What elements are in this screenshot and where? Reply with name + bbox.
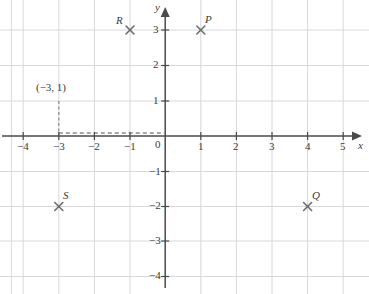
x-tick-label-2: 2 <box>233 141 239 152</box>
x-tick-label-4: 4 <box>305 141 311 152</box>
y-tick-label-minus3: −3 <box>149 235 161 246</box>
y-tick-label-minus1: −1 <box>149 166 161 177</box>
x-axis-label: x <box>358 140 363 151</box>
x-tick-label-1: 1 <box>198 141 204 152</box>
y-tick-label-1: 1 <box>153 95 159 106</box>
x-tick-label-minus2: −2 <box>88 141 100 152</box>
y-axis <box>161 7 170 288</box>
point-label-P: P <box>205 14 212 25</box>
y-tick-label-minus2: −2 <box>149 200 161 211</box>
x-tick-label-zero: 0 <box>155 139 161 150</box>
x-tick-label-minus3: −3 <box>53 141 65 152</box>
y-tick-label-minus4: −4 <box>149 270 161 281</box>
y-axis-label: y <box>155 2 160 13</box>
coordinate-annotation: (−3, 1) <box>36 82 66 93</box>
point-label-Q: Q <box>312 190 320 201</box>
data-point-markers <box>55 26 312 211</box>
y-tick-label-2: 2 <box>153 59 159 70</box>
y-tick-label-3: 3 <box>153 24 159 35</box>
dashed-guides <box>59 101 164 135</box>
x-tick-label-5: 5 <box>340 141 346 152</box>
x-tick-label-minus4: −4 <box>17 141 29 152</box>
x-tick-label-3: 3 <box>269 141 275 152</box>
x-tick-label-minus1: −1 <box>124 141 136 152</box>
point-label-S: S <box>63 190 69 201</box>
point-label-R: R <box>116 15 123 26</box>
coordinate-plane-chart: −4 −3 −2 −1 0 1 2 3 4 5 3 2 1 −1 −2 −3 −… <box>0 0 369 294</box>
